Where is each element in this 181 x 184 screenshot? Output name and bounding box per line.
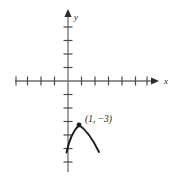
- y-axis-label: y: [73, 12, 78, 22]
- coordinate-graph-figure: (1, −3) x y: [0, 0, 181, 184]
- x-axis-label: x: [163, 76, 168, 86]
- vertex-point-label: (1, −3): [85, 114, 112, 125]
- vertex-point-marker: [77, 123, 82, 128]
- figure-background: [0, 0, 181, 184]
